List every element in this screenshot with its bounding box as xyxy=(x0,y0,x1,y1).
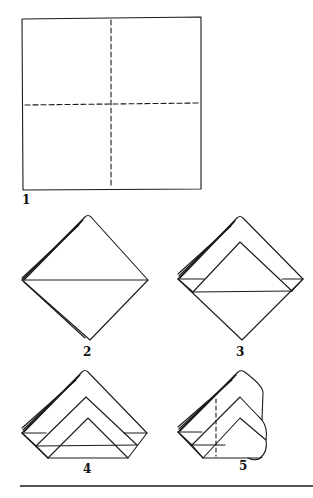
step-2-diamond xyxy=(22,216,148,341)
step-1-square xyxy=(22,17,201,190)
folding-diagram xyxy=(0,0,313,498)
step-4-layered xyxy=(22,371,147,459)
step-2-label: 2 xyxy=(83,346,91,358)
step-3-diamond xyxy=(178,217,303,341)
step-3-label: 3 xyxy=(236,346,244,358)
step-5-folded xyxy=(178,371,267,460)
step-5-label: 5 xyxy=(239,460,247,472)
step-1-label: 1 xyxy=(22,194,30,206)
bottom-rule-divider xyxy=(20,485,313,487)
step-4-label: 4 xyxy=(83,463,91,475)
